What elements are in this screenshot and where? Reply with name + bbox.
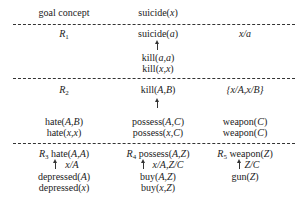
arrow-up-icon (143, 162, 144, 169)
rule-r2-label: R2 (59, 84, 69, 99)
r5-body-1: gun(Z) (231, 171, 258, 182)
r2-right-1: weapon(C) (223, 116, 267, 127)
r4-substitution: x/A,Z/C (153, 159, 184, 170)
r4-body-1: buy(A,Z) (140, 171, 176, 182)
divider-1 (13, 24, 295, 25)
arrow-up-icon (239, 162, 240, 169)
r2-head: kill(A,B) (141, 84, 176, 95)
r1-substitution: x/a (239, 28, 251, 39)
r1-body-1: kill(a,a) (142, 52, 175, 63)
divider-3 (13, 143, 295, 144)
r1-head: suicide(a) (138, 28, 178, 39)
r1-body-2: kill(x,x) (142, 63, 173, 74)
r2-mid-1: possess(A,C) (132, 116, 184, 127)
r2-mid-2: possess(x,C) (133, 127, 183, 138)
r4-body-2: buy(x,Z) (141, 182, 175, 193)
r2-left-1: hate(A,B) (45, 116, 83, 127)
r3-body-2: depressed(x) (39, 182, 90, 193)
r2-left-2: hate(x,x) (47, 127, 82, 138)
arrow-up-icon (157, 101, 158, 108)
r3-body-1: depressed(A) (38, 171, 90, 182)
r3-head: R3 hate(A,A) (39, 148, 89, 163)
goal-concept-label: goal concept (39, 7, 90, 18)
arrow-up-icon (157, 43, 158, 50)
r2-right-2: weapon(C) (223, 127, 267, 138)
r5-substitution: Z/C (244, 159, 259, 170)
r3-substitution: x/A (65, 159, 78, 170)
r2-substitution: {x/A,x/B} (226, 84, 263, 95)
divider-2 (13, 78, 295, 79)
arrow-up-icon (55, 162, 56, 169)
goal-concept-term: suicide(x) (138, 7, 177, 18)
rule-r1-label: R1 (59, 28, 69, 43)
